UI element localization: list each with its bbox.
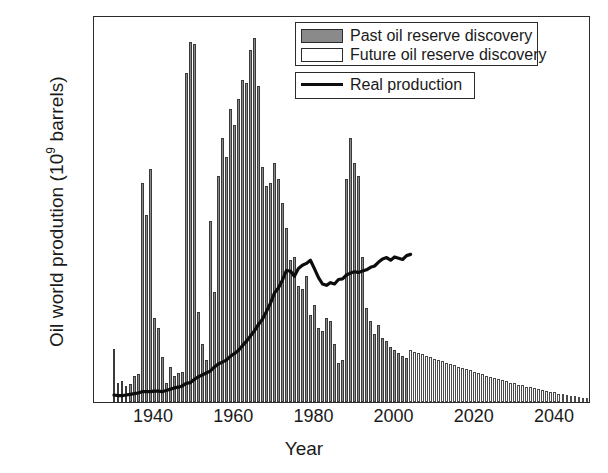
y-tick — [93, 82, 94, 83]
legend-bars: Past oil reserve discovery Future oil re… — [295, 22, 538, 66]
x-tick-minor — [515, 402, 516, 403]
y-tick — [93, 340, 94, 341]
x-tick-minor — [435, 402, 436, 403]
legend-label-past: Past oil reserve discovery — [350, 26, 532, 45]
y-tick — [93, 17, 94, 18]
x-tick — [475, 402, 476, 403]
legend-label-future: Future oil reserve discovery — [350, 45, 547, 64]
y-axis-label: Oil world prodution (109 barrels) — [44, 52, 67, 372]
x-tick-minor — [254, 402, 255, 403]
x-tick-minor — [415, 402, 416, 403]
x-tick-minor — [294, 402, 295, 403]
x-tick-minor — [535, 402, 536, 403]
x-tick-minor — [495, 402, 496, 403]
x-tick-minor — [274, 402, 275, 403]
y-tick-minor — [93, 307, 94, 308]
y-tick — [93, 211, 94, 212]
x-tick-label: 2040 — [524, 406, 584, 427]
x-tick-label: 1980 — [283, 406, 343, 427]
x-tick-minor — [375, 402, 376, 403]
legend-item-past: Past oil reserve discovery — [301, 26, 532, 45]
x-tick — [395, 402, 396, 403]
legend-item-production: Real production — [301, 75, 469, 94]
x-tick-minor — [114, 402, 115, 403]
x-axis-label: Year — [0, 438, 608, 460]
oil-discovery-production-chart: Oil world prodution (109 barrels) Year 0… — [0, 0, 608, 473]
y-tick — [93, 146, 94, 147]
x-tick-label: 2020 — [444, 406, 504, 427]
x-tick-minor — [355, 402, 356, 403]
y-tick — [93, 275, 94, 276]
past-swatch-icon — [301, 29, 343, 43]
x-tick-minor — [334, 402, 335, 403]
x-tick — [555, 402, 556, 403]
future-swatch-icon — [301, 48, 343, 62]
legend-label-production: Real production — [350, 75, 462, 94]
x-tick-minor — [94, 402, 95, 403]
y-axis-label-tail: barrels) — [46, 76, 67, 147]
y-tick-minor — [93, 372, 94, 373]
y-tick-minor — [93, 243, 94, 244]
line-swatch-icon — [301, 83, 343, 86]
y-tick-minor — [93, 114, 94, 115]
x-tick-minor — [174, 402, 175, 403]
legend-line: Real production — [295, 72, 475, 99]
y-tick-minor — [93, 49, 94, 50]
x-tick-minor — [455, 402, 456, 403]
y-axis-label-main: Oil world prodution (10 — [46, 154, 67, 347]
x-tick — [154, 402, 155, 403]
y-tick-minor — [93, 178, 94, 179]
y-axis-label-exponent: 9 — [44, 147, 58, 154]
x-tick-minor — [214, 402, 215, 403]
x-tick-label: 2000 — [364, 406, 424, 427]
x-tick — [234, 402, 235, 403]
x-tick — [314, 402, 315, 403]
legend-item-future: Future oil reserve discovery — [301, 45, 532, 64]
x-tick-minor — [194, 402, 195, 403]
x-tick-label: 1960 — [203, 406, 263, 427]
x-tick-minor — [575, 402, 576, 403]
x-tick-minor — [134, 402, 135, 403]
x-tick-label: 1940 — [123, 406, 183, 427]
real-production-line — [114, 254, 411, 395]
